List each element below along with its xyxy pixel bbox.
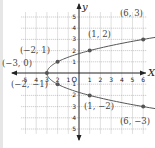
x-axis-label: X — [147, 67, 155, 78]
point-label: (−2, 1) — [20, 45, 50, 55]
x-tick-label: 6 — [141, 76, 145, 83]
x-axis-arrow-left-icon — [11, 71, 17, 76]
x-tick-label: 2 — [56, 76, 60, 83]
data-point — [88, 93, 92, 97]
y-tick-label: 5 — [72, 125, 76, 132]
point-label: (−3, 0) — [2, 58, 32, 68]
data-point — [141, 37, 145, 41]
y-axis-label: y — [81, 1, 88, 12]
y-tick-label: 2 — [72, 91, 76, 98]
data-point — [56, 60, 60, 64]
y-tick-label: 4 — [72, 114, 76, 121]
x-tick-label: 1 — [66, 76, 70, 83]
origin-label: O — [71, 76, 77, 84]
point-label: (1, 2) — [88, 29, 111, 39]
y-tick-label: 1 — [72, 58, 76, 65]
x-tick-label: 5 — [131, 76, 135, 83]
y-tick-label: 4 — [72, 24, 76, 31]
data-point — [141, 105, 145, 109]
y-axis-arrow-down-icon — [77, 135, 82, 141]
y-tick-label: 3 — [72, 35, 76, 42]
x-tick-label: 4 — [120, 76, 124, 83]
y-tick-label: 3 — [72, 103, 76, 110]
x-tick-label: 3 — [109, 76, 113, 83]
y-tick-label: 5 — [72, 13, 76, 20]
data-point — [88, 49, 92, 53]
y-tick-label: 2 — [72, 47, 76, 54]
point-label: (6, 3) — [120, 8, 143, 18]
x-tick-label: 1 — [88, 76, 92, 83]
y-axis-arrow-up-icon — [77, 3, 82, 9]
point-label: (−2, −1) — [11, 79, 48, 89]
data-point — [56, 82, 60, 86]
point-label: (6, −3) — [120, 116, 150, 126]
x-tick-label: 2 — [98, 76, 102, 83]
parabola-graph: Xy 543211234565432112345O (−3, 0)(−2, 1)… — [0, 0, 155, 148]
point-label: (1, −2) — [84, 101, 114, 111]
data-point — [45, 71, 49, 75]
